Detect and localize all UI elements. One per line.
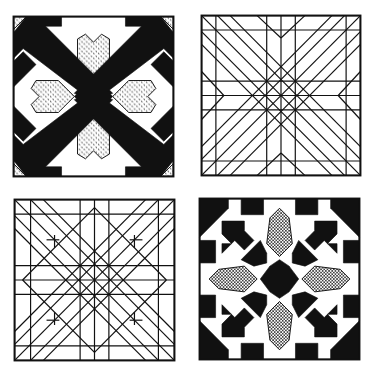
tile-pattern-filled-hatched (198, 197, 361, 361)
black-region (343, 240, 359, 263)
black-region (343, 295, 359, 318)
black-region (295, 343, 317, 359)
tile-construction-lines-a (200, 14, 362, 177)
black-region (295, 199, 317, 215)
tile-svg-top-right (200, 14, 362, 177)
tile-svg-bottom-left (13, 198, 176, 362)
tile-svg-top-left (12, 15, 175, 178)
tile-construction-lines-b (13, 198, 176, 362)
black-region (241, 199, 263, 215)
tile-pattern-filled-stippled (12, 15, 175, 178)
black-region (200, 295, 216, 318)
black-region (200, 240, 216, 263)
tile-svg-bottom-right (198, 197, 361, 361)
black-region (241, 343, 263, 359)
